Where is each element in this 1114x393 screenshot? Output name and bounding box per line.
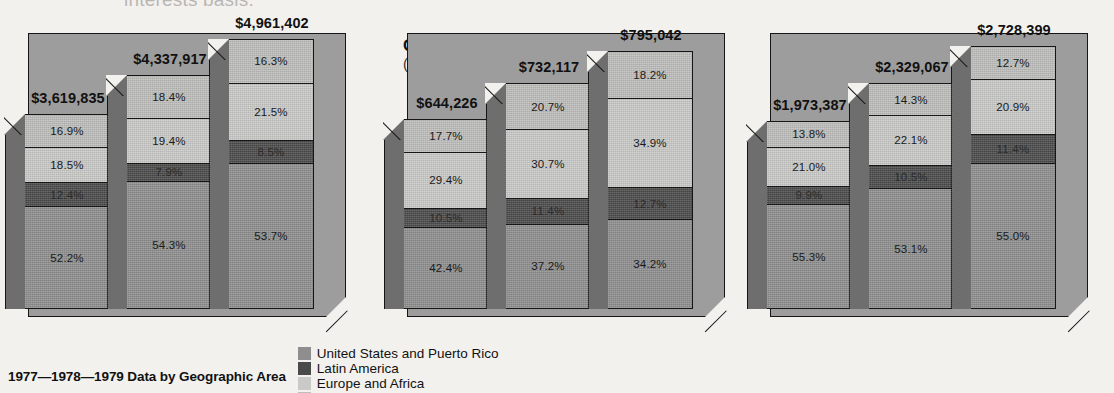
segment-percent-label: 8.5% (257, 146, 284, 158)
bar-group-1978: $4,337,91718.4%19.4%7.9%54.3%1978 (126, 75, 212, 309)
bar-segment-canada-and-pacific[interactable]: 18.2% (608, 52, 692, 99)
stacked-bar-1979[interactable]: 16.3%21.5%8.5%53.7% (228, 39, 314, 309)
bar-top-face (208, 39, 229, 60)
bar-side-face (384, 140, 404, 309)
legend-swatch-icon (298, 377, 311, 390)
bar-segment-canada-and-pacific[interactable]: 12.7% (971, 47, 1055, 80)
bar-side-face (588, 72, 608, 309)
bar-segment-europe-and-africa[interactable]: 20.9% (971, 80, 1055, 135)
bar-segment-latin-america[interactable]: 7.9% (127, 164, 211, 182)
bar-segment-europe-and-africa[interactable]: 22.1% (869, 116, 953, 166)
bar-group-1978: $2,329,06714.3%22.1%10.5%53.1%1978 (868, 83, 954, 309)
bar-top-face (950, 46, 971, 67)
segment-percent-label: 11.4% (997, 143, 1030, 155)
bar-segment-canada-and-pacific[interactable]: 20.7% (506, 84, 590, 130)
legend-item-1[interactable]: Latin America (298, 361, 499, 376)
bar-top-face (4, 114, 25, 135)
bar-segment-latin-america[interactable]: 12.7% (608, 188, 692, 221)
bar-group-1979: $2,728,39912.7%20.9%11.4%55.0%1979 (970, 46, 1056, 309)
bar-segment-united-states-and-puerto-rico[interactable]: 55.3% (767, 205, 851, 308)
bar-segment-europe-and-africa[interactable]: 29.4% (404, 153, 488, 208)
bar-group-1977: $3,619,83516.9%18.5%12.4%52.2%1977 (24, 114, 110, 309)
segment-percent-label: 18.4% (152, 91, 186, 103)
bar-side-face (5, 135, 25, 309)
chart-legend: 1977—1978—1979 Data by Geographic Area U… (8, 364, 1108, 388)
bar-segment-united-states-and-puerto-rico[interactable]: 34.2% (608, 220, 692, 308)
segment-percent-label: 21.5% (254, 106, 288, 118)
bar-segment-canada-and-pacific[interactable]: 13.8% (767, 122, 851, 148)
legend-title: 1977—1978—1979 Data by Geographic Area (8, 369, 286, 384)
chart-panel-assets: Assets(in thousands)$1,973,38713.8%21.0%… (748, 0, 1108, 355)
bar-segment-europe-and-africa[interactable]: 30.7% (506, 130, 590, 199)
bar-segment-canada-and-pacific[interactable]: 18.4% (127, 76, 211, 119)
segment-percent-label: 37.2% (531, 260, 565, 272)
bar-side-face (951, 67, 971, 309)
bar-segment-canada-and-pacific[interactable]: 17.7% (404, 120, 488, 153)
segment-percent-label: 34.2% (633, 258, 667, 270)
bar-top-face (485, 83, 506, 104)
bar-segment-united-states-and-puerto-rico[interactable]: 37.2% (506, 225, 590, 308)
bar-segment-latin-america[interactable]: 8.5% (229, 141, 313, 164)
segment-percent-label: 21.0% (792, 161, 826, 173)
segment-percent-label: 52.2% (50, 252, 84, 264)
bar-segment-united-states-and-puerto-rico[interactable]: 53.7% (229, 164, 313, 308)
stacked-bar-1977[interactable]: 16.9%18.5%12.4%52.2% (24, 114, 110, 309)
bar-total-label: $4,961,402 (202, 15, 342, 31)
bar-top-face (383, 119, 404, 140)
legend-swatch-icon (298, 362, 311, 375)
bar-segment-europe-and-africa[interactable]: 34.9% (608, 99, 692, 188)
bar-segment-europe-and-africa[interactable]: 18.5% (25, 148, 109, 184)
segment-percent-label: 10.5% (429, 212, 463, 224)
bar-side-face (486, 104, 506, 309)
segment-percent-label: 19.4% (152, 135, 186, 147)
segment-percent-label: 14.3% (894, 94, 928, 106)
bar-segment-united-states-and-puerto-rico[interactable]: 53.1% (869, 189, 953, 308)
legend-item-2[interactable]: Europe and Africa (298, 376, 499, 391)
segment-percent-label: 9.9% (795, 189, 822, 201)
bar-segment-latin-america[interactable]: 10.5% (404, 209, 488, 229)
bar-segment-united-states-and-puerto-rico[interactable]: 55.0% (971, 164, 1055, 308)
stacked-bar-1978[interactable]: 20.7%30.7%11.4%37.2% (505, 83, 591, 309)
bar-segment-united-states-and-puerto-rico[interactable]: 52.2% (25, 207, 109, 308)
bar-segment-europe-and-africa[interactable]: 21.5% (229, 84, 313, 142)
segment-percent-label: 42.4% (429, 262, 463, 274)
segment-percent-label: 20.7% (531, 101, 565, 113)
bar-top-face (587, 51, 608, 72)
bar-total-label: $795,042 (581, 27, 721, 43)
bar-total-label: $2,728,399 (944, 22, 1084, 38)
bar-segment-united-states-and-puerto-rico[interactable]: 42.4% (404, 228, 488, 308)
segment-percent-label: 17.7% (429, 130, 463, 142)
bar-top-face (848, 83, 869, 104)
bar-segment-united-states-and-puerto-rico[interactable]: 54.3% (127, 182, 211, 308)
legend-item-0[interactable]: United States and Puerto Rico (298, 346, 499, 361)
bar-group-1977: $644,22617.7%29.4%10.5%42.4%1977 (403, 119, 489, 309)
stacked-bar-1977[interactable]: 13.8%21.0%9.9%55.3% (766, 121, 852, 309)
stacked-bar-1979[interactable]: 12.7%20.9%11.4%55.0% (970, 46, 1056, 309)
legend-swatch-icon (298, 347, 311, 360)
bar-segment-canada-and-pacific[interactable]: 16.9% (25, 115, 109, 148)
bar-segment-latin-america[interactable]: 12.4% (25, 183, 109, 207)
bar-segment-europe-and-africa[interactable]: 21.0% (767, 148, 851, 187)
bar-segment-latin-america[interactable]: 11.4% (506, 199, 590, 225)
stacked-bar-1979[interactable]: 18.2%34.9%12.7%34.2% (607, 51, 693, 309)
segment-percent-label: 11.4% (532, 205, 565, 217)
bar-segment-canada-and-pacific[interactable]: 14.3% (869, 84, 953, 116)
stacked-bar-1978[interactable]: 18.4%19.4%7.9%54.3% (126, 75, 212, 309)
segment-percent-label: 10.5% (894, 171, 928, 183)
bar-segment-canada-and-pacific[interactable]: 16.3% (229, 40, 313, 84)
stacked-bar-1978[interactable]: 14.3%22.1%10.5%53.1% (868, 83, 954, 309)
segment-percent-label: 29.4% (429, 174, 463, 186)
chart-page: interests basis. Net Sales(in thousands)… (0, 0, 1114, 393)
segment-percent-label: 7.9% (155, 166, 182, 178)
segment-percent-label: 34.9% (633, 137, 667, 149)
bar-segment-latin-america[interactable]: 11.4% (971, 135, 1055, 165)
bar-segment-latin-america[interactable]: 9.9% (767, 187, 851, 205)
bar-segment-europe-and-africa[interactable]: 19.4% (127, 119, 211, 164)
bar-group-1979: $4,961,40216.3%21.5%8.5%53.7%1979 (228, 39, 314, 309)
segment-percent-label: 13.8% (792, 128, 826, 140)
segment-percent-label: 55.0% (996, 230, 1030, 242)
legend-item-list: United States and Puerto RicoLatin Ameri… (298, 346, 525, 393)
stacked-bar-1977[interactable]: 17.7%29.4%10.5%42.4% (403, 119, 489, 309)
legend-item-label: United States and Puerto Rico (317, 346, 499, 361)
bar-segment-latin-america[interactable]: 10.5% (869, 166, 953, 190)
